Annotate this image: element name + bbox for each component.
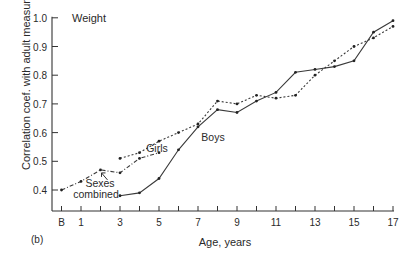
- data-point: [333, 65, 336, 68]
- chart-title: Weight: [72, 12, 106, 24]
- series-line: [120, 26, 393, 158]
- data-point: [275, 97, 278, 100]
- x-tick-label: 9: [234, 217, 240, 228]
- data-point: [294, 71, 297, 74]
- series-girls: [119, 25, 395, 160]
- label-girls: Girls: [146, 142, 168, 154]
- y-tick-label: 1.0: [33, 13, 47, 24]
- data-point: [138, 157, 141, 160]
- data-point: [275, 91, 278, 94]
- data-point: [255, 100, 258, 103]
- data-point: [177, 148, 180, 151]
- x-tick-label: 11: [271, 217, 282, 228]
- data-point: [197, 123, 200, 126]
- data-point: [314, 68, 317, 71]
- data-point: [392, 19, 395, 22]
- x-tick-label: 1: [78, 217, 84, 228]
- label-boys: Boys: [201, 131, 224, 143]
- data-point: [333, 59, 336, 62]
- y-tick-label: 0.5: [33, 156, 47, 167]
- x-tick-label: B: [58, 217, 65, 228]
- y-tick-label: 0.6: [33, 128, 47, 139]
- y-tick-label: 0.9: [33, 42, 47, 53]
- y-tick-label: 0.4: [33, 185, 47, 196]
- series-line: [120, 21, 393, 196]
- data-point: [372, 36, 375, 39]
- data-point: [138, 151, 141, 154]
- data-point: [177, 131, 180, 134]
- data-point: [353, 59, 356, 62]
- data-point: [372, 31, 375, 34]
- data-point: [158, 177, 161, 180]
- data-point: [60, 189, 63, 192]
- data-point: [216, 108, 219, 111]
- data-point: [197, 125, 200, 128]
- data-point: [80, 180, 83, 183]
- x-axis-label: Age, years: [199, 236, 252, 248]
- data-point: [138, 191, 141, 194]
- data-point: [314, 74, 317, 77]
- series-group: [60, 19, 394, 197]
- x-tick-label: 7: [195, 217, 201, 228]
- y-tick-label: 0.7: [33, 99, 47, 110]
- data-point: [119, 194, 122, 197]
- data-point: [236, 111, 239, 114]
- data-point: [119, 157, 122, 160]
- data-point: [294, 94, 297, 97]
- x-tick-label: 13: [309, 217, 321, 228]
- x-tick-label: 3: [117, 217, 123, 228]
- y-tick-label: 0.8: [33, 70, 47, 81]
- data-point: [353, 45, 356, 48]
- x-tick-label: 5: [156, 217, 162, 228]
- data-point: [99, 169, 102, 172]
- data-point: [216, 100, 219, 103]
- annotations: GirlsBoysSexescombined: [73, 131, 224, 200]
- data-point: [119, 171, 122, 174]
- x-tick-label: 17: [387, 217, 399, 228]
- data-point: [392, 25, 395, 28]
- data-point: [236, 103, 239, 106]
- chart-canvas: 0.40.50.60.70.80.91.0B1357911131517 Girl…: [0, 0, 414, 263]
- panel-label: (b): [31, 234, 43, 245]
- y-axis-label: Correlation coef. with adult measurement: [20, 0, 32, 170]
- correlation-line-chart: 0.40.50.60.70.80.91.0B1357911131517 Girl…: [0, 0, 414, 263]
- label-sexes-combined-line2: combined: [73, 188, 119, 200]
- data-point: [255, 94, 258, 97]
- x-tick-label: 15: [348, 217, 360, 228]
